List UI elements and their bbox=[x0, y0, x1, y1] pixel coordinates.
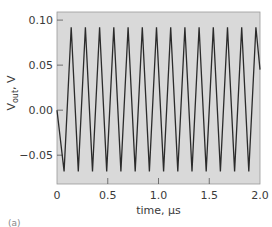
triangle-wave-chart: 0.100.050.00−0.05 00.51.01.52.0 time, µs… bbox=[0, 0, 272, 227]
x-tick-label: 0.5 bbox=[99, 189, 117, 202]
y-tick-label: 0.05 bbox=[29, 59, 54, 72]
x-axis-label: time, µs bbox=[136, 204, 181, 217]
y-axis: 0.100.050.00−0.05 bbox=[19, 14, 63, 162]
y-axis-label: Vout, V bbox=[5, 75, 20, 111]
y-tick-label: 0.00 bbox=[29, 104, 54, 117]
panel-label: (a) bbox=[8, 218, 21, 227]
y-tick-label: 0.10 bbox=[29, 14, 54, 27]
x-tick-label: 0 bbox=[54, 189, 61, 202]
x-tick-label: 1.5 bbox=[201, 189, 219, 202]
x-tick-label: 2.0 bbox=[251, 189, 269, 202]
y-axis-label-sub: out bbox=[11, 90, 20, 103]
plot-area bbox=[57, 12, 260, 184]
y-tick-label: −0.05 bbox=[19, 149, 53, 162]
x-tick-label: 1.0 bbox=[150, 189, 168, 202]
y-axis-label-suffix: , V bbox=[5, 75, 18, 90]
